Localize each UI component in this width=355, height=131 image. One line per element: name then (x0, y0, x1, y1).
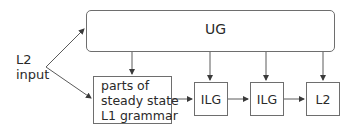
l1-box-line2: steady state (101, 93, 179, 108)
l1-grammar-box: parts of steady state L1 grammar (93, 76, 172, 124)
ilg-box-1: ILG (194, 82, 228, 116)
ilg-box-2: ILG (250, 82, 284, 116)
l1-box-line1: parts of (101, 78, 149, 93)
input-label-line1: L2 (16, 52, 32, 67)
ug-label: UG (205, 21, 226, 37)
ug-box: UG (86, 10, 335, 52)
l2-box: L2 (306, 82, 340, 116)
l1-box-line3: L1 grammar (101, 108, 178, 123)
input-label-line2: input (16, 67, 49, 82)
